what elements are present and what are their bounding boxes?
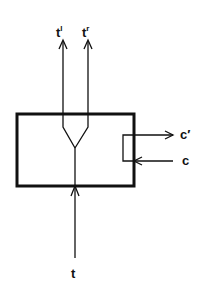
label-output-left: tl: [56, 24, 63, 40]
label-input: t: [71, 266, 76, 281]
split-left-branch: [63, 41, 75, 148]
label-ctrl-out: c′: [180, 127, 190, 142]
split-right-branch: [75, 41, 88, 148]
label-ctrl-in: c: [182, 153, 189, 168]
label-output-right: tr: [82, 24, 89, 40]
diagram-canvas: tl tr t c′ c: [0, 0, 212, 297]
